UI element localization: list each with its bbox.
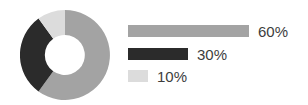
legend-label-10: 10% (157, 69, 187, 84)
legend-label-60: 60% (258, 24, 288, 39)
legend-item-30[interactable]: 30% (128, 44, 227, 64)
chart-legend: 60% 30% 10% (128, 21, 303, 91)
donut-chart (20, 10, 110, 100)
donut-chart-svg (20, 10, 110, 100)
donut-chart-figure: 60% 30% 10% (0, 0, 308, 105)
legend-swatch-10 (128, 70, 148, 82)
legend-item-60[interactable]: 60% (128, 21, 288, 41)
legend-swatch-30 (128, 48, 188, 60)
legend-swatch-60 (128, 25, 249, 37)
legend-item-10[interactable]: 10% (128, 66, 187, 86)
legend-label-30: 30% (197, 47, 227, 62)
